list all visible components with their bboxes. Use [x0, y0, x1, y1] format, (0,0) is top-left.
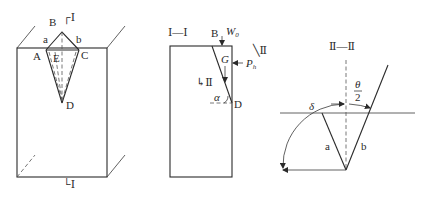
label-w0: W0 — [226, 25, 239, 39]
section-marker-ii-left: ↳Ⅱ — [196, 76, 213, 88]
wedge-face-b — [346, 65, 388, 170]
wedge-top-ridge — [46, 32, 79, 50]
block-hidden-edge — [17, 155, 35, 177]
label-delta: δ — [309, 100, 315, 112]
section-marker-top: ┌Ⅰ — [63, 11, 75, 25]
section-title-2: Ⅱ—Ⅱ — [329, 40, 355, 52]
label-d-point: D — [234, 98, 242, 110]
figure-3-section: Ⅱ—Ⅱ δ θ 2 a b — [280, 40, 415, 170]
alpha-arc — [224, 96, 228, 103]
section-rect — [170, 46, 232, 177]
label-theta-denominator: 2 — [355, 91, 361, 103]
wedge-hidden-c — [62, 52, 76, 101]
section-marker-bottom: └Ⅰ — [63, 177, 75, 190]
diagram-canvas: B ┌Ⅰ a b A E C D └Ⅰ Ⅰ—Ⅰ B W0 G Ph ╲Ⅱ ↳Ⅱ … — [0, 0, 426, 197]
block-back-edge-bottom — [107, 155, 125, 177]
label-b-lower: b — [76, 33, 82, 45]
label-e-point: E — [53, 52, 60, 64]
delta-arc — [283, 104, 344, 168]
wedge-edge-cd — [62, 50, 79, 103]
label-ph: Ph — [245, 57, 257, 71]
label-b-point: B — [211, 27, 218, 39]
block-back-edge-left — [17, 26, 35, 48]
label-a-point: A — [33, 50, 41, 62]
label-alpha: α — [214, 91, 220, 103]
label-b: b — [361, 140, 367, 152]
figure-2-section: Ⅰ—Ⅰ B W0 G Ph ╲Ⅱ ↳Ⅱ α D — [168, 25, 267, 177]
theta-arc-right — [349, 104, 370, 108]
label-a: a — [325, 140, 330, 152]
label-g: G — [221, 53, 229, 65]
label-theta: θ — [355, 78, 361, 90]
label-d-point: D — [66, 99, 74, 111]
section-marker-ii-right: ╲Ⅱ — [252, 43, 267, 57]
label-a-lower: a — [43, 33, 48, 45]
label-c-point: C — [81, 49, 88, 61]
label-b-point: B — [49, 16, 56, 28]
section-title-1: Ⅰ—Ⅰ — [168, 26, 188, 38]
block-back-edge-right — [107, 26, 125, 48]
figure-1-block: B ┌Ⅰ a b A E C D └Ⅰ — [17, 11, 125, 190]
